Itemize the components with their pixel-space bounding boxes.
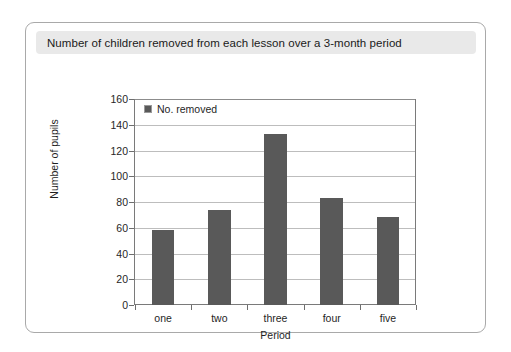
x-axis-tick-mark — [247, 305, 248, 310]
y-axis-tick-label: 40 — [102, 248, 128, 260]
bar-two[interactable] — [208, 210, 230, 305]
x-axis-tick-labels: onetwothreefourfive — [135, 312, 416, 324]
x-axis-tick-label: four — [304, 312, 360, 324]
x-axis-tick-mark — [191, 305, 192, 310]
bar-slot — [191, 99, 247, 305]
bar-slot — [360, 99, 416, 305]
y-axis-tick-label: 0 — [102, 299, 128, 311]
x-axis-tick-label: one — [135, 312, 191, 324]
x-axis-tick-mark — [304, 305, 305, 310]
x-axis-tick-mark — [360, 305, 361, 310]
x-axis-tick-mark — [416, 305, 417, 310]
y-axis-tick-label: 160 — [102, 93, 128, 105]
y-axis-tick-label: 120 — [102, 145, 128, 157]
y-axis-tick-labels: 020406080100120140160 — [100, 99, 128, 305]
y-axis-tick-label: 100 — [102, 170, 128, 182]
y-axis-tick-label: 60 — [102, 222, 128, 234]
y-axis-tick-label: 20 — [102, 273, 128, 285]
bar-four[interactable] — [320, 198, 342, 305]
chart-legend: No. removed — [144, 103, 217, 115]
chart-title: Number of children removed from each les… — [36, 37, 402, 49]
x-axis-tick-mark — [135, 305, 136, 310]
bar-five[interactable] — [377, 217, 399, 305]
x-axis-tick-label: two — [191, 312, 247, 324]
x-axis-tick-marks — [135, 305, 416, 310]
bar-one[interactable] — [152, 230, 174, 305]
bar-slot — [304, 99, 360, 305]
chart-title-bar: Number of children removed from each les… — [36, 31, 476, 54]
y-axis-title: Number of pupils — [48, 94, 60, 224]
x-axis-tick-label: five — [360, 312, 416, 324]
y-axis-tick-mark — [129, 305, 134, 306]
y-axis-tick-label: 80 — [102, 196, 128, 208]
x-axis-title: Period — [135, 329, 416, 341]
bar-three[interactable] — [264, 134, 286, 305]
legend-label: No. removed — [157, 103, 217, 115]
figure-frame: Number of children removed from each les… — [25, 22, 486, 333]
bar-series-no-removed — [135, 99, 416, 305]
bar-slot — [135, 99, 191, 305]
legend-swatch-icon — [144, 105, 152, 113]
y-axis-tick-label: 140 — [102, 119, 128, 131]
x-axis-tick-label: three — [247, 312, 303, 324]
bar-slot — [247, 99, 303, 305]
bar-chart: Number of pupils 020406080100120140160 N… — [26, 57, 485, 332]
